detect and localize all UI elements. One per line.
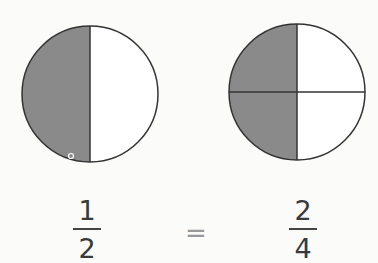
numerator: 2 — [283, 196, 323, 226]
fraction-one-half: 1 2 — [67, 196, 107, 263]
fraction-bar — [289, 228, 317, 230]
equals-sign: = — [185, 218, 207, 248]
circle-quarters — [229, 24, 365, 160]
fraction-two-fourths: 2 4 — [283, 196, 323, 263]
circle-halves — [22, 26, 158, 162]
denominator: 4 — [283, 234, 323, 263]
shaded-half — [22, 26, 90, 162]
fraction-bar — [73, 228, 101, 230]
denominator: 2 — [67, 234, 107, 263]
numerator: 1 — [67, 196, 107, 226]
unshaded-half — [90, 26, 158, 162]
